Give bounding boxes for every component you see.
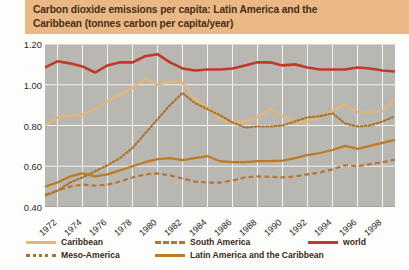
legend-swatch-solid [155,254,185,257]
legend-swatch-solid [308,241,338,244]
chart-title-banner: Carbon dioxide emissions per capita: Lat… [25,0,409,34]
chart-page: Carbon dioxide emissions per capita: Lat… [0,0,409,270]
y-tick-label: 0.40 [24,202,42,213]
series-line-world [45,54,395,72]
y-tick-label: 0.60 [24,161,42,172]
x-tick-label: 1994 [312,217,334,238]
x-tick-label: 1984 [187,217,209,238]
x-tick-label: 1998 [362,217,384,238]
x-tick-label: 1974 [62,217,84,238]
series-line-latin-america-and-the-caribbean [45,140,395,187]
x-tick-label: 1988 [237,217,259,238]
x-tick-label: 1992 [287,217,309,238]
y-tick-label: 0.80 [24,120,42,131]
legend-item-world[interactable]: world [308,237,366,247]
series-line-caribbean [45,79,395,126]
legend-swatch-dashed [155,241,185,244]
title-line-2: Caribbean (tonnes carbon per capita/year… [33,18,233,29]
legend-swatch-dotted [26,254,56,257]
legend-label: South America [190,237,250,247]
legend-label: Caribbean [61,237,103,247]
x-tick-label: 1978 [112,217,134,238]
x-tick-label: 1990 [262,217,284,238]
y-tick-label: 1.20 [24,39,42,50]
chart-legend: CaribbeanMeso-AmericaSouth AmericaLatin … [0,236,409,266]
legend-label: Meso-America [61,250,120,260]
legend-label: world [343,237,366,247]
chart-svg [45,44,395,207]
plot-area [45,44,395,207]
x-tick-label: 1982 [162,217,184,238]
legend-item-meso-america[interactable]: Meso-America [26,250,120,260]
legend-swatch-solid [26,241,56,244]
legend-item-latin-america-and-the-caribbean[interactable]: Latin America and the Caribbean [155,250,324,260]
y-axis: 0.400.600.801.001.20 [0,44,42,207]
y-tick-label: 1.00 [24,79,42,90]
x-tick-label: 1976 [87,217,109,238]
x-tick-label: 1972 [37,217,59,238]
series-line-south-america [45,160,395,195]
x-tick-label: 1986 [212,217,234,238]
x-tick-label: 1996 [337,217,359,238]
legend-item-south-america[interactable]: South America [155,237,250,247]
legend-label: Latin America and the Caribbean [190,250,324,260]
legend-item-caribbean[interactable]: Caribbean [26,237,103,247]
x-tick-label: 1980 [137,217,159,238]
page-title: Carbon dioxide emissions per capita: Lat… [33,3,403,30]
title-line-1: Carbon dioxide emissions per capita: Lat… [33,4,317,15]
